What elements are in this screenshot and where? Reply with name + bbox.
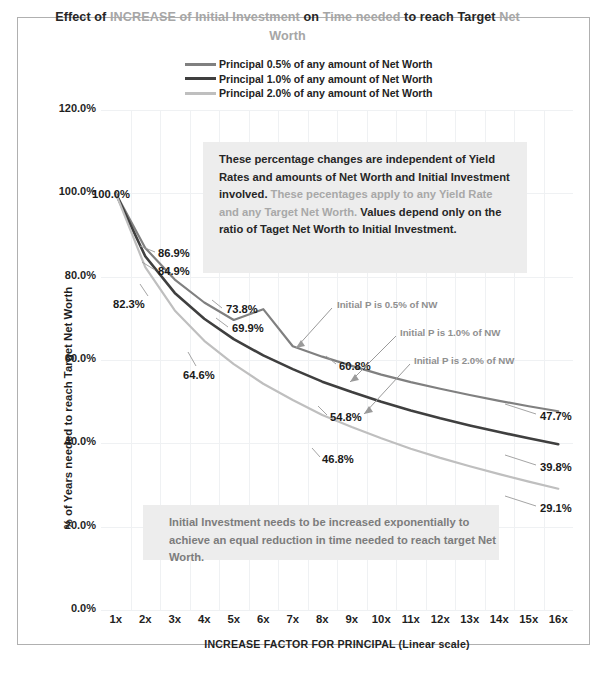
data-point-label: 47.7%	[540, 410, 572, 422]
x-axis-title: INCREASE FACTOR FOR PRINCIPAL (Linear sc…	[101, 638, 573, 650]
data-point-label: 69.9%	[232, 322, 264, 334]
chart-title: Effect of INCREASE of Initial Investment…	[40, 8, 535, 46]
data-point-label: 60.8%	[339, 360, 371, 372]
data-point-label: 46.8%	[322, 453, 354, 465]
legend-label: Principal 0.5% of any amount of Net Wort…	[219, 58, 432, 70]
series-annotation-2: Initial P is 2.0% of NW	[414, 355, 514, 366]
data-point-label: 100.0%	[92, 188, 130, 200]
title-segment-0: Effect of	[55, 10, 110, 24]
legend-item-1[interactable]: Principal 1.0% of any amount of Net Wort…	[185, 72, 545, 87]
legend-label: Principal 2.0% of any amount of Net Wort…	[219, 87, 432, 99]
data-point-label: 29.1%	[540, 502, 572, 514]
chart-legend: Principal 0.5% of any amount of Net Wort…	[185, 57, 545, 101]
legend-item-0[interactable]: Principal 0.5% of any amount of Net Wort…	[185, 57, 545, 72]
legend-line-icon	[185, 92, 216, 95]
note-box-top-text: These percentage changes are independent…	[219, 151, 513, 239]
title-segment-3: Time needed	[323, 10, 404, 24]
x-tick-label: 16x	[538, 613, 578, 625]
data-point-label: 86.9%	[158, 247, 190, 259]
y-axis-title-anchor: % of Years needed to reach Target Net Wo…	[28, 110, 29, 610]
title-segment-4: to reach Target	[404, 10, 499, 24]
data-point-label: 84.9%	[158, 265, 190, 277]
data-point-label: 64.6%	[183, 369, 215, 381]
legend-item-2[interactable]: Principal 2.0% of any amount of Net Wort…	[185, 86, 545, 101]
x-axis-ticks: 1x2x3x4x5x6x7x8x9x10x11x12x13x14x15x16x	[101, 613, 573, 631]
data-point-label: 54.8%	[330, 411, 362, 423]
series-annotation-0: Initial P is 0.5% of NW	[337, 299, 437, 310]
gridline-horizontal	[101, 610, 573, 611]
note-box-bottom: Initial Investment needs to be increased…	[143, 505, 499, 560]
legend-line-icon	[185, 77, 216, 80]
chart-page: Effect of INCREASE of Initial Investment…	[0, 0, 609, 691]
series-annotation-1: Initial P is 1.0% of NW	[400, 327, 500, 338]
y-axis-title: % of Years needed to reach Target Net Wo…	[62, 218, 74, 598]
data-point-label: 73.8%	[226, 303, 258, 315]
y-tick-label: 100.0%	[34, 185, 96, 197]
y-axis-ticks: 0.0%20.0%40.0%60.0%80.0%100.0%120.0%	[24, 110, 96, 610]
title-segment-2: on	[303, 10, 322, 24]
legend-line-icon	[185, 63, 216, 66]
title-segment-1: INCREASE of Initial Investment	[110, 10, 303, 24]
data-point-label: 82.3%	[113, 298, 145, 310]
note-box-top: These percentage changes are independent…	[203, 142, 527, 273]
note-box-bottom-text: Initial Investment needs to be increased…	[169, 514, 499, 567]
y-tick-label: 120.0%	[34, 102, 96, 114]
legend-label: Principal 1.0% of any amount of Net Wort…	[219, 73, 432, 85]
data-point-label: 39.8%	[540, 461, 572, 473]
y-tick-label: 0.0%	[34, 602, 96, 614]
